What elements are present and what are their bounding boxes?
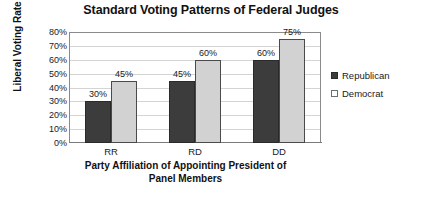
chart-legend: RepublicanDemocrat [331, 68, 417, 104]
bar-dd-republican [253, 60, 279, 143]
x-axis-category-label: DD [237, 146, 321, 157]
bar-value-label: 75% [272, 27, 312, 37]
y-axis-tick-label: 40% [38, 83, 67, 93]
bar-value-label: 60% [188, 48, 228, 58]
republican-swatch-icon [331, 72, 338, 79]
x-axis-title: Party Affiliation of Appointing Presiden… [48, 160, 323, 185]
chart-title: Standard Voting Patterns of Federal Judg… [0, 3, 422, 17]
y-axis-tick-label: 70% [38, 41, 67, 51]
x-axis-title-line-1: Party Affiliation of Appointing Presiden… [48, 160, 323, 173]
y-axis-tick-label: 10% [38, 124, 67, 134]
y-axis-title: Liberal Voting Rate [12, 0, 23, 102]
bar-rr-democrat [111, 81, 137, 143]
x-axis-category-label: RD [153, 146, 237, 157]
bar-rd-democrat [195, 60, 221, 143]
y-axis-tick-label: 80% [38, 27, 67, 37]
y-axis-tick-label: 50% [38, 69, 67, 79]
y-axis-tick-label: 0% [38, 138, 67, 148]
bar-rr-republican [85, 101, 111, 143]
bar-rd-republican [169, 81, 195, 143]
legend-item-label: Republican [342, 70, 390, 81]
legend-item-democrat[interactable]: Democrat [331, 86, 417, 101]
x-axis-title-line-2: Panel Members [48, 173, 323, 186]
bar-dd-democrat [279, 39, 305, 143]
bar-group: 30%45% [85, 32, 137, 143]
bar-value-label: 45% [104, 69, 144, 79]
y-axis-tick-label: 20% [38, 110, 67, 120]
y-axis-tick-label: 60% [38, 55, 67, 65]
legend-item-label: Democrat [342, 88, 383, 99]
bars-layer: 30%45%45%60%60%75% [69, 32, 321, 143]
bar-group: 60%75% [253, 32, 305, 143]
legend-item-republican[interactable]: Republican [331, 68, 417, 83]
democrat-swatch-icon [331, 90, 338, 97]
bar-chart: Standard Voting Patterns of Federal Judg… [0, 0, 422, 197]
x-axis-category-labels: RRRDDD [69, 146, 321, 160]
bar-group: 45%60% [169, 32, 221, 143]
y-axis-tick-label: 30% [38, 96, 67, 106]
y-axis-tick-labels: 0%10%20%30%40%50%60%70%80% [38, 26, 67, 150]
x-axis-category-label: RR [69, 146, 153, 157]
